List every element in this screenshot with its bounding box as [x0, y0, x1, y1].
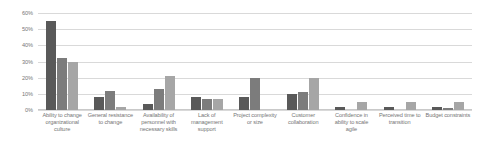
bar[interactable] [250, 78, 260, 110]
x-category-label: Budget constraints [424, 112, 472, 151]
bar-group [38, 13, 86, 110]
bar-group [376, 13, 424, 110]
bar-group [231, 13, 279, 110]
bar[interactable] [298, 92, 308, 110]
bar[interactable] [213, 99, 223, 110]
bar[interactable] [443, 108, 453, 110]
x-category-label: Availability of personnel with necessary… [134, 112, 182, 151]
x-category-label: Project complexity or size [231, 112, 279, 151]
bar[interactable] [335, 107, 345, 110]
gridline [38, 110, 472, 111]
bar-group [327, 13, 375, 110]
x-category-label: Confidence in ability to scale agile [327, 112, 375, 151]
y-tick-label: 30% [22, 59, 33, 65]
x-category-label: Lack of management support [183, 112, 231, 151]
bar[interactable] [105, 91, 115, 110]
bar-group [183, 13, 231, 110]
y-tick-label: 10% [22, 91, 33, 97]
y-tick-label: 20% [22, 75, 33, 81]
y-tick-label: 60% [22, 10, 33, 16]
bar[interactable] [357, 102, 367, 110]
x-category-label: Ability to change organizational culture [38, 112, 86, 151]
bar-chart: 60%50%40%30%20%10%0% Ability to change o… [0, 0, 479, 151]
bar-group [279, 13, 327, 110]
bar[interactable] [239, 97, 249, 110]
bar[interactable] [57, 58, 67, 110]
bar[interactable] [191, 97, 201, 110]
x-category-label: Customer collaboration [279, 112, 327, 151]
bar[interactable] [287, 94, 297, 110]
bar[interactable] [384, 107, 394, 110]
bar[interactable] [68, 62, 78, 111]
bar-group [86, 13, 134, 110]
bar[interactable] [202, 99, 212, 110]
bar[interactable] [406, 102, 416, 110]
bar[interactable] [46, 21, 56, 110]
bar[interactable] [454, 102, 464, 110]
bar[interactable] [94, 97, 104, 110]
bar[interactable] [143, 104, 153, 110]
bar[interactable] [309, 78, 319, 110]
bar[interactable] [165, 76, 175, 110]
x-category-label: Perceived time to transition [376, 112, 424, 151]
bar-group [134, 13, 182, 110]
bar[interactable] [154, 89, 164, 110]
x-category-label: General resistance to change [86, 112, 134, 151]
x-axis-category-labels: Ability to change organizational culture… [38, 112, 472, 151]
y-tick-label: 40% [22, 42, 33, 48]
y-tick-label: 0% [25, 107, 33, 113]
y-tick-label: 50% [22, 26, 33, 32]
bar-group [424, 13, 472, 110]
plot-area [38, 13, 472, 110]
bar[interactable] [432, 107, 442, 110]
bar-groups [38, 13, 472, 110]
y-axis: 60%50%40%30%20%10%0% [0, 0, 38, 123]
bar[interactable] [116, 107, 126, 110]
